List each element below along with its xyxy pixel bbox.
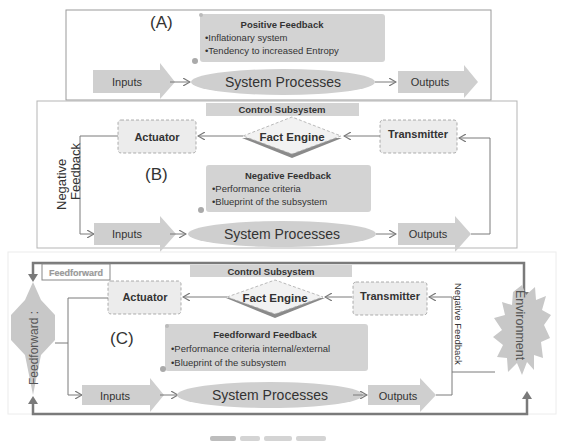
caption-blur-block	[210, 436, 236, 441]
system-processes-label: System Processes	[225, 74, 341, 90]
feedback-item: •Performance criteria	[212, 183, 302, 194]
caption-blur-block	[296, 436, 326, 441]
panel-c: Feedforward Control Subsystem Feedforwar…	[8, 252, 556, 414]
inputs-label: Inputs	[100, 390, 130, 402]
scroll-curl-icon	[198, 207, 204, 213]
scroll-curl-icon	[160, 366, 166, 372]
system-processes-label: System Processes	[212, 387, 328, 403]
negative-feedback-label: Negative Feedback	[453, 283, 464, 365]
feedback-item: •Blueprint of the subsystem	[212, 196, 327, 207]
fact-engine-label: Fact Engine	[242, 292, 307, 304]
feedforward-feedback-box: Feedforward Feedback •Performance criter…	[160, 324, 368, 372]
panel-a: (A) Positive Feedback •Inflationary syst…	[66, 10, 491, 100]
system-processes-label: System Processes	[224, 226, 340, 242]
actuator-label: Actuator	[122, 291, 168, 303]
feedback-title: Positive Feedback	[241, 19, 325, 30]
outputs-label: Outputs	[409, 228, 448, 240]
panel-c-label: (C)	[110, 329, 134, 348]
feedback-item: •Inflationary system	[205, 32, 288, 43]
control-subsystem-label: Control Subsystem	[227, 266, 314, 277]
negative-feedback-label: Negative	[54, 159, 69, 210]
caption-blur-block	[240, 436, 260, 441]
caption-blur-block	[264, 436, 292, 441]
panel-a-label: (A)	[150, 13, 173, 32]
actuator-label: Actuator	[134, 131, 180, 143]
transmitter-label: Transmitter	[360, 290, 421, 302]
scroll-curl-icon	[192, 58, 198, 64]
inputs-label: Inputs	[112, 76, 142, 88]
inputs-label: Inputs	[112, 228, 142, 240]
negative-feedback-box: Negative Feedback •Performance criteria …	[198, 165, 371, 213]
panel-b-label: (B)	[145, 165, 168, 184]
transmitter-label: Transmitter	[388, 128, 449, 140]
fact-engine-label: Fact Engine	[259, 131, 324, 143]
positive-feedback-box: Positive Feedback •Inflationary system •…	[192, 13, 385, 64]
feedforward-node-label: Feedforward :	[27, 311, 41, 385]
outputs-label: Outputs	[379, 390, 418, 402]
control-subsystem-label: Control Subsystem	[238, 104, 325, 115]
scroll-curl-icon	[199, 13, 203, 17]
environment-label: Environment	[513, 290, 527, 361]
feedback-item: •Performance criteria internal/external	[171, 343, 330, 354]
feedback-item: •Tendency to increased Entropy	[205, 45, 339, 56]
scroll-curl-icon	[165, 324, 169, 328]
negative-feedback-label: Feedback	[68, 142, 83, 200]
panel-b: Control Subsystem Actuator Fact Engine T…	[37, 101, 517, 252]
outputs-label: Outputs	[411, 76, 450, 88]
feedback-title: Negative Feedback	[245, 170, 332, 181]
figure-caption-illegible	[210, 429, 350, 437]
feedback-item: •Blueprint of the subsystem	[171, 357, 286, 368]
feedforward-tag-label: Feedforward	[49, 268, 103, 278]
feedback-title: Feedforward Feedback	[213, 329, 317, 340]
